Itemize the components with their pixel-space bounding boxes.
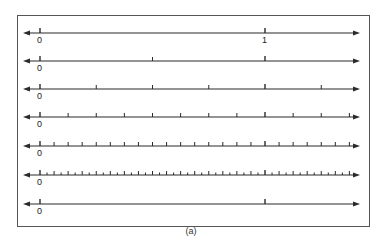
- number-line: 0: [23, 141, 360, 158]
- zero-label: 0: [37, 119, 42, 129]
- arrow-right-icon: [353, 173, 360, 178]
- number-lines-group: 01000000: [23, 28, 360, 216]
- arrow-right-icon: [353, 87, 360, 92]
- arrow-left-icon: [23, 87, 30, 92]
- arrow-left-icon: [23, 59, 30, 64]
- arrow-right-icon: [353, 31, 360, 36]
- figure-caption: (a): [0, 226, 382, 236]
- number-line: 0: [23, 56, 360, 73]
- zero-label: 0: [37, 63, 42, 73]
- arrow-left-icon: [23, 115, 30, 120]
- number-line-figure: 01000000 (a): [0, 0, 382, 241]
- number-line: 0: [23, 170, 360, 187]
- arrow-right-icon: [353, 144, 360, 149]
- number-line: 0: [23, 112, 360, 129]
- number-line: 0: [23, 84, 360, 101]
- arrow-left-icon: [23, 31, 30, 36]
- arrow-right-icon: [353, 115, 360, 120]
- arrow-left-icon: [23, 202, 30, 207]
- zero-label: 0: [37, 206, 42, 216]
- zero-label: 0: [37, 177, 42, 187]
- arrow-right-icon: [353, 202, 360, 207]
- figure-frame: [18, 16, 370, 227]
- number-lines-diagram: 01000000: [0, 0, 382, 241]
- one-label: 1: [262, 35, 267, 45]
- arrow-left-icon: [23, 173, 30, 178]
- arrow-left-icon: [23, 144, 30, 149]
- number-line: 0: [23, 199, 360, 216]
- arrow-right-icon: [353, 59, 360, 64]
- number-line: 01: [23, 28, 360, 45]
- zero-label: 0: [37, 148, 42, 158]
- zero-label: 0: [37, 35, 42, 45]
- zero-label: 0: [37, 91, 42, 101]
